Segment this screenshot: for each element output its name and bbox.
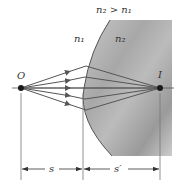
image-distance-label: s′ — [114, 163, 122, 174]
refraction-diagram: n₂ > n₁ n₁ n₂ O I s s′ — [0, 0, 181, 188]
medium1-label: n₁ — [74, 33, 84, 44]
image-point — [157, 85, 163, 91]
condition-label: n₂ > n₁ — [96, 4, 132, 15]
medium2-label: n₂ — [115, 33, 125, 44]
object-distance-label: s — [49, 163, 54, 174]
object-point — [18, 85, 24, 91]
incident-rays — [21, 66, 86, 110]
object-label: O — [17, 70, 25, 81]
